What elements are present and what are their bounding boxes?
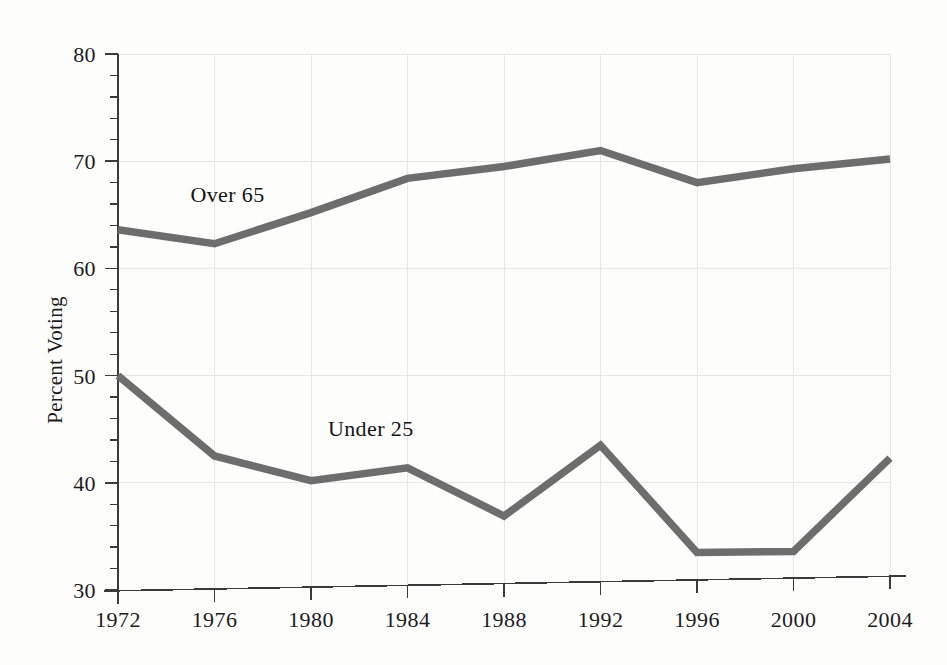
x-axis-tick-label: 1980 [288, 607, 334, 632]
y-axis-tick-labels: 304050607080 [73, 42, 96, 603]
x-axis-tick-label: 1984 [385, 607, 431, 632]
x-axis-tick-label: 1996 [674, 607, 720, 632]
y-axis-title: Percent Voting [43, 296, 67, 424]
y-axis-tick-label: 40 [73, 471, 96, 496]
line-chart: 304050607080 197219761980198419881992199… [0, 0, 947, 665]
y-axis [105, 54, 118, 602]
series-inline-labels: Over 65Under 25 [190, 182, 413, 441]
x-axis-tick-label: 1976 [192, 607, 238, 632]
y-axis-tick-label: 60 [73, 256, 96, 281]
x-axis-tick-labels: 197219761980198419881992199620002004 [95, 607, 913, 632]
y-axis-tick-label: 70 [73, 149, 96, 174]
y-axis-tick-label: 50 [73, 364, 96, 389]
x-axis-tick-label: 1992 [578, 607, 624, 632]
x-axis-tick-label: 1972 [95, 607, 141, 632]
x-axis-spine [104, 576, 906, 591]
gridlines-vertical [215, 54, 891, 590]
chart-container: 304050607080 197219761980198419881992199… [0, 0, 947, 665]
x-axis [104, 576, 906, 604]
y-axis-tick-label: 30 [73, 578, 96, 603]
x-axis-tick-label: 2004 [867, 607, 913, 632]
x-axis-tick-label: 2000 [771, 607, 817, 632]
x-axis-tick-label: 1988 [481, 607, 527, 632]
series-inline-label: Over 65 [190, 182, 264, 207]
y-axis-tick-label: 80 [73, 42, 96, 67]
series-inline-label: Under 25 [328, 416, 414, 441]
